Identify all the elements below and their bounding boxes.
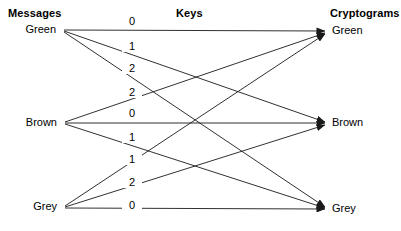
- column-header-keys: Keys: [176, 7, 203, 19]
- edge-grey-to-green: [65, 34, 325, 206]
- cryptogram-node-green: Green: [332, 24, 363, 36]
- cryptogram-node-grey: Grey: [332, 202, 356, 214]
- bipartite-cipher-diagram: Messages Keys Cryptograms GreenBrownGrey…: [0, 0, 401, 231]
- key-label-brown-to-brown: 0: [122, 108, 142, 119]
- key-label-brown-to-grey: 1: [122, 132, 142, 143]
- key-label-green-to-green: 0: [122, 16, 142, 27]
- key-label-green-to-grey: 2: [122, 63, 142, 74]
- message-node-grey: Grey: [0, 200, 57, 212]
- message-node-green: Green: [0, 23, 56, 35]
- edge-green-to-green: [64, 30, 325, 31]
- cryptogram-node-brown: Brown: [332, 116, 363, 128]
- edge-green-to-brown: [64, 31, 325, 122]
- key-label-grey-to-grey: 0: [122, 200, 142, 211]
- key-label-green-to-brown: 1: [122, 41, 142, 52]
- key-label-grey-to-brown: 2: [122, 177, 142, 188]
- edge-grey-to-grey: [65, 208, 325, 209]
- key-label-grey-to-green: 1: [122, 154, 142, 165]
- edge-grey-to-brown: [65, 125, 325, 207]
- column-header-messages: Messages: [8, 7, 61, 19]
- edges-group: [64, 30, 325, 209]
- column-header-cryptograms: Cryptograms: [330, 7, 400, 19]
- message-node-brown: Brown: [0, 116, 57, 128]
- key-label-brown-to-green: 2: [122, 87, 142, 98]
